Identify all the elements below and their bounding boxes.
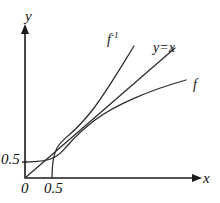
curve-label-f-inverse: f-1 — [107, 31, 118, 47]
curve-label-f-inverse-exponent: -1 — [111, 30, 119, 40]
x-axis-label: x — [203, 171, 210, 186]
origin-label: 0 — [21, 181, 29, 196]
curve-label-identity: y=x — [153, 41, 175, 55]
y-axis-arrowhead-icon — [21, 24, 29, 34]
identity-line-y-equals-x — [25, 48, 175, 178]
curve-f-inverse — [52, 46, 134, 178]
curve-label-f: f — [193, 78, 197, 92]
y-axis-tick-label: 0.5 — [1, 152, 20, 167]
x-axis-arrowhead-icon — [192, 174, 202, 182]
x-axis-tick-label: 0.5 — [44, 181, 63, 196]
function-inverse-graph-figure: y x 0.5 0 0.5 f-1 y=x f — [0, 0, 220, 203]
y-axis-label: y — [25, 9, 32, 24]
